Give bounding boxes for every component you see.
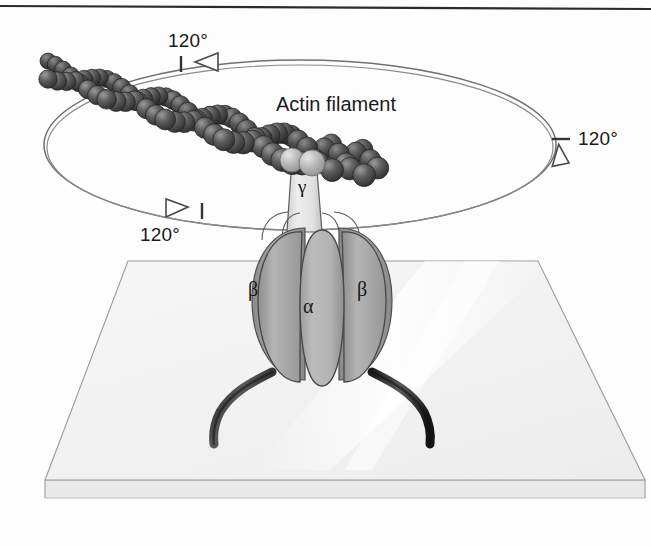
arrowhead-bottom-icon [166,199,188,217]
alpha-subunit-label: α [303,295,313,318]
rotation-arrow-bottom [166,199,202,219]
angle-label-top: 120° [168,30,208,52]
actin-monomer-bead [97,90,117,110]
actin-filament [39,53,389,187]
actin-filament-label: Actin filament [276,93,396,116]
actin-monomer-bead [213,129,235,151]
actin-monomer-bead [155,109,176,130]
beta-subunit-label-right: β [357,278,367,301]
arrowhead-top-icon [195,53,218,71]
gamma-subunit-label: γ [298,176,306,198]
diagram-canvas [0,0,651,546]
top-rule [0,6,651,9]
angle-label-right: 120° [578,128,618,150]
f1-atpase-head [252,212,392,386]
figure-container: 120° 120° 120° Actin filament γ β α β [0,0,651,546]
actin-monomer-bead [353,164,376,187]
actin-attachment-bead [299,150,325,176]
beta-subunit-label-left: β [248,278,258,301]
actin-monomer-bead [39,70,57,88]
angle-label-bottom: 120° [140,224,180,246]
